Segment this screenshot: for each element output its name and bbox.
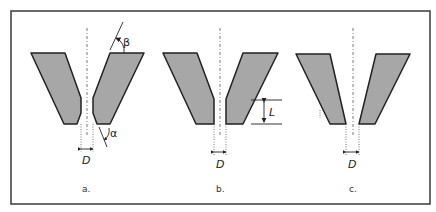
left-jaw-c xyxy=(296,54,346,124)
dimension-label-b: D xyxy=(216,158,224,171)
right-jaw-c xyxy=(359,54,410,124)
panel-c: D c. xyxy=(296,28,410,194)
panel-caption-b: b. xyxy=(216,184,225,194)
panel-caption-c: c. xyxy=(349,184,357,194)
right-jaw-a xyxy=(93,53,144,124)
alpha-reference-line xyxy=(99,127,107,147)
dimension-label-c: D xyxy=(348,158,356,171)
alpha-label: α xyxy=(110,127,117,140)
figure-canvas: D β α a. D L b. D c. xyxy=(0,0,436,212)
left-jaw-b xyxy=(163,53,214,124)
beta-reference-line xyxy=(110,22,123,50)
panel-caption-a: a. xyxy=(82,184,90,194)
panel-b: D L b. xyxy=(163,28,282,194)
beta-label: β xyxy=(123,36,130,49)
length-label: L xyxy=(269,106,275,119)
left-jaw-a xyxy=(31,53,81,124)
alpha-angle-arc xyxy=(104,128,109,140)
panel-a: D β α a. xyxy=(31,22,144,194)
dimension-label-a: D xyxy=(82,154,90,167)
